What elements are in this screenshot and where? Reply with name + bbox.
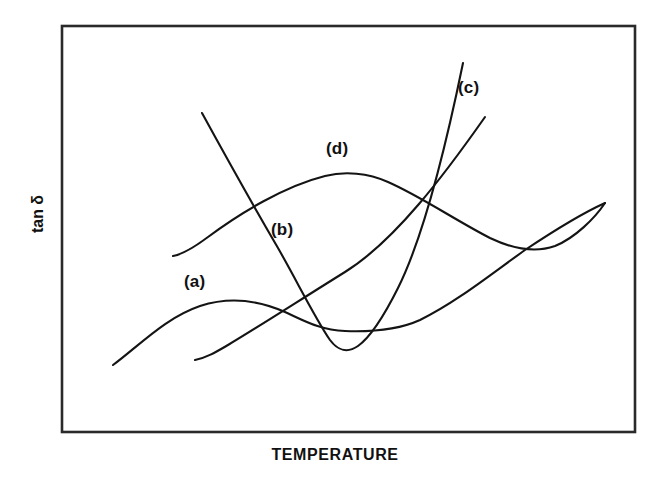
curve-b [202, 63, 463, 350]
curve-label-c: (c) [458, 78, 479, 98]
curve-d [173, 173, 605, 256]
x-axis-title: TEMPERATURE [0, 446, 670, 464]
figure-container: (a) (b) (c) (d) TEMPERATURE tan δ [0, 0, 670, 481]
curve-label-b: (b) [271, 220, 293, 240]
curve-label-d: (d) [326, 139, 348, 159]
y-axis-title: tan δ [29, 164, 47, 264]
curve-label-a: (a) [184, 272, 205, 292]
plot-canvas [0, 0, 670, 481]
plot-frame [62, 26, 635, 432]
